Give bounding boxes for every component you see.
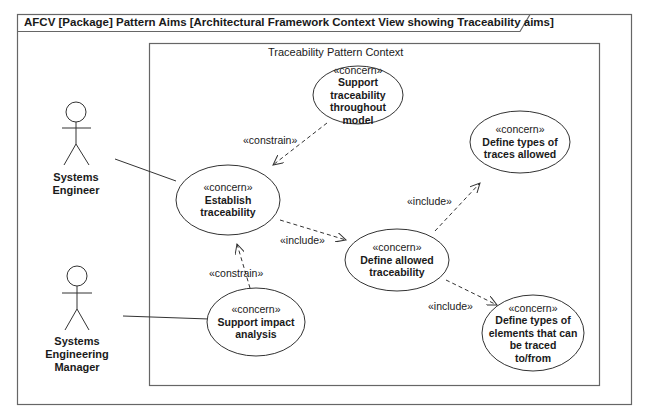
label-constrain-support: «constrain» xyxy=(243,134,297,146)
label-include-establish: «include» xyxy=(280,234,325,246)
usecase-establish-traceability[interactable]: «concern» Establish traceability xyxy=(176,165,280,235)
usecase-define-element-types[interactable]: «concern» Define types of elements that … xyxy=(482,295,584,371)
actor-systems-engineering-manager-label[interactable]: Systems Engineering Manager xyxy=(32,335,122,374)
label-include-element-types: «include» xyxy=(428,300,473,312)
actor-systems-engineer-label[interactable]: Systems Engineer xyxy=(31,171,121,197)
association-manager-impact[interactable] xyxy=(123,316,209,319)
label-constrain-impact: «constrain» xyxy=(209,267,263,279)
boundary-title: Traceability Pattern Context xyxy=(268,46,468,58)
dependency-include-allowed-to-trace-types[interactable] xyxy=(435,183,480,231)
usecase-support-impact-analysis[interactable]: «concern» Support impact analysis xyxy=(207,288,305,356)
label-include-trace-types: «include» xyxy=(407,195,452,207)
dependency-constrain-impact-to-establish[interactable] xyxy=(237,244,250,288)
actor-systems-engineer-figure[interactable] xyxy=(62,102,91,165)
association-engineer-establish[interactable] xyxy=(115,159,176,181)
actor-systems-engineering-manager-figure[interactable] xyxy=(62,266,92,330)
usecase-support-traceability[interactable]: «concern» Support traceability throughou… xyxy=(313,66,403,124)
usecase-define-allowed-traceability[interactable]: «concern» Define allowed traceability xyxy=(345,229,449,291)
usecase-define-trace-types[interactable]: «concern» Define types of traces allowed xyxy=(470,111,570,173)
frame-title: AFCV [Package] Pattern Aims [Architectur… xyxy=(24,16,554,28)
